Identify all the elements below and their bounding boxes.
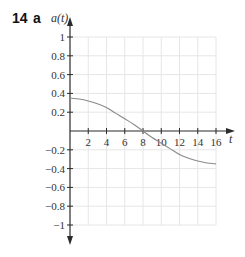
x-tick-label: 16 bbox=[211, 136, 223, 148]
line-chart: a(t)t24681012141610.80.60.40.2−0.2−0.4−0… bbox=[0, 0, 245, 257]
y-axis-arrow-down-icon bbox=[67, 236, 73, 245]
x-tick-label: 12 bbox=[174, 136, 185, 148]
y-tick-label: 1 bbox=[60, 31, 66, 43]
y-tick-label: 0.4 bbox=[51, 87, 65, 99]
y-tick-label: −0.4 bbox=[45, 163, 65, 175]
y-axis-label: a(t) bbox=[51, 11, 68, 25]
x-tick-label: 4 bbox=[104, 136, 110, 148]
x-tick-label: 6 bbox=[122, 136, 128, 148]
y-tick-label: −0.2 bbox=[45, 144, 65, 156]
x-tick-label: 14 bbox=[192, 136, 204, 148]
tick-labels: a(t)t24681012141610.80.60.40.2−0.2−0.4−0… bbox=[45, 11, 233, 231]
y-tick-label: 0.8 bbox=[51, 50, 65, 62]
x-tick-label: 8 bbox=[140, 136, 146, 148]
y-tick-label: 0.2 bbox=[51, 106, 65, 118]
y-tick-label: −1 bbox=[53, 219, 65, 231]
y-tick-label: 0.6 bbox=[51, 69, 65, 81]
axes bbox=[67, 17, 235, 245]
y-tick-label: −0.8 bbox=[45, 200, 65, 212]
x-tick-label: 2 bbox=[86, 136, 92, 148]
y-tick-label: −0.6 bbox=[45, 181, 65, 193]
x-axis-label: t bbox=[229, 132, 233, 146]
